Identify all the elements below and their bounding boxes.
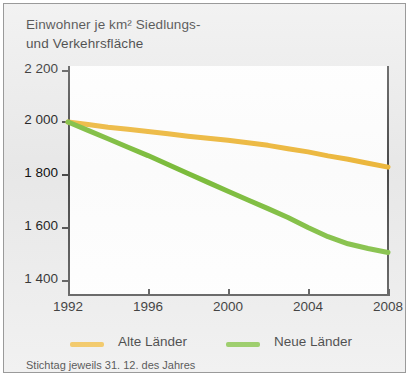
legend-swatch-alte-laender (70, 342, 104, 347)
legend-label-neue-laender: Neue Länder (274, 334, 352, 349)
data-lines (4, 4, 406, 373)
chart-footnote: Stichtag jeweils 31. 12. des Jahres (26, 359, 195, 371)
legend-swatch-neue-laender (226, 342, 260, 347)
chart-legend: Alte Länder Neue Länder (4, 334, 406, 356)
legend-label-alte-laender: Alte Länder (118, 334, 187, 349)
chart-figure: Einwohner je km² Siedlungs- und Verkehrs… (3, 3, 406, 373)
